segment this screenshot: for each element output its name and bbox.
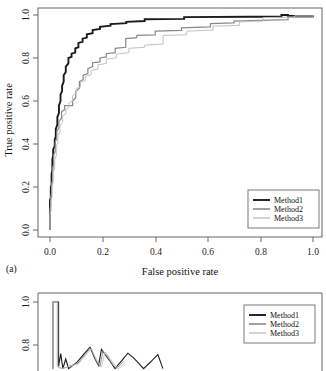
curve-method1 [53,302,163,369]
panel-b-plot: 1.0 0.8 Method1 Method2 [0,288,326,371]
x-tick-5: 1.0 [307,237,319,257]
legend-label-b-method2: Method2 [270,320,299,329]
roc-figure: 0.0 0.2 0.4 0.6 0.8 [0,0,326,371]
y-tick-b-0: 0.8 [21,339,38,351]
y-tick-label-2: 0.4 [21,138,31,150]
curve-method3 [53,302,126,369]
x-tick-4: 0.8 [255,237,267,257]
x-axis-group-a: 0.0 0.2 0.4 0.6 0.8 [44,237,319,257]
panel-tag-a: (a) [6,264,17,275]
y-tick-5: 1.0 [21,9,38,21]
legend-label-method3: Method3 [274,214,303,223]
y-tick-label-1: 0.2 [21,181,31,193]
y-tick-label-0: 0.0 [21,224,31,236]
x-tick-0: 0.0 [44,237,56,257]
x-tick-2: 0.4 [150,237,162,257]
y-axis-group-a: 0.0 0.2 0.4 0.6 0.8 [21,9,38,236]
curves-b [53,302,163,369]
y-tick-b-1: 1.0 [21,296,38,308]
x-tick-label-0: 0.0 [44,247,56,257]
y-axis-title-a: True positive rate [3,83,14,157]
y-axis-group-b: 1.0 0.8 [21,296,38,351]
legend-label-method1: Method1 [274,196,303,205]
y-tick-0: 0.0 [21,224,38,236]
panel-a: 0.0 0.2 0.4 0.6 0.8 [0,0,326,285]
x-tick-3: 0.6 [202,237,214,257]
y-tick-3: 0.6 [21,95,38,107]
panel-b: 1.0 0.8 Method1 Method2 [0,288,326,371]
x-tick-label-4: 0.8 [255,247,267,257]
legend-a: Method1 Method2 Method3 [248,190,319,228]
y-tick-label-5: 1.0 [21,9,31,21]
curve-method2 [53,302,124,369]
x-tick-label-2: 0.4 [150,247,162,257]
legend-label-method2: Method2 [274,205,303,214]
y-tick-1: 0.2 [21,181,38,193]
y-tick-4: 0.8 [21,52,38,64]
panel-a-plot: 0.0 0.2 0.4 0.6 0.8 [0,0,326,285]
x-tick-label-3: 0.6 [202,247,214,257]
x-axis-title-a: False positive rate [142,266,219,277]
y-tick-label-b-1: 1.0 [21,296,31,308]
y-tick-label-b-0: 0.8 [21,339,31,351]
legend-label-b-method3: Method3 [270,329,299,338]
y-tick-2: 0.4 [21,138,38,150]
x-tick-label-5: 1.0 [307,247,319,257]
y-tick-label-4: 0.8 [21,52,31,64]
y-tick-label-3: 0.6 [21,95,31,107]
x-tick-1: 0.2 [97,237,109,257]
legend-b: Method1 Method2 Method3 [244,305,315,343]
legend-label-b-method1: Method1 [270,311,299,320]
x-tick-label-1: 0.2 [97,247,109,257]
